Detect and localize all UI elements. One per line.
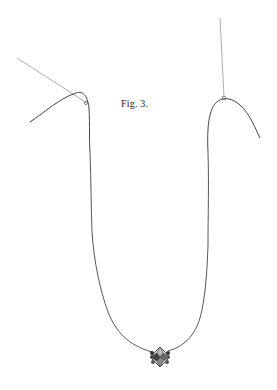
thread-diagram	[0, 0, 277, 390]
left-hook-curve	[30, 92, 90, 152]
figure-caption: Fig. 3.	[121, 98, 148, 109]
right-hook-curve	[208, 99, 260, 152]
u-thread-right	[168, 152, 208, 351]
left-knot	[84, 101, 87, 104]
u-thread	[90, 152, 152, 352]
right-support-line	[220, 18, 224, 97]
pendant-bead	[150, 347, 170, 367]
left-support-line	[17, 58, 87, 103]
